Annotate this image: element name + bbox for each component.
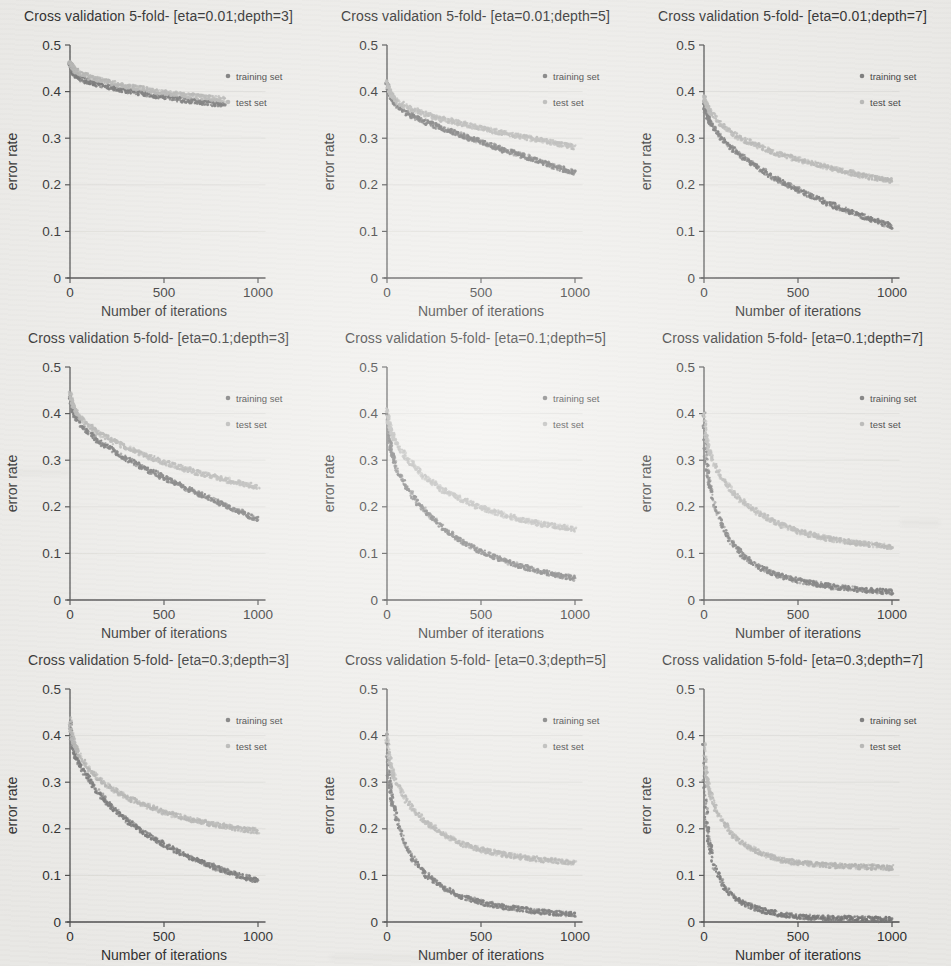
svg-text:0: 0 [53, 915, 61, 930]
svg-text:0.5: 0.5 [359, 38, 378, 53]
svg-text:0.3: 0.3 [359, 775, 378, 790]
legend-training-marker [543, 396, 548, 401]
svg-text:1000: 1000 [243, 285, 273, 300]
chart-panel-eta001-depth7: Cross validation 5-fold- [eta=0.01;depth… [634, 0, 951, 322]
chart-title: Cross validation 5-fold- [eta=0.1;depth=… [634, 322, 951, 349]
svg-text:0.5: 0.5 [676, 360, 695, 375]
legend-test-marker [543, 100, 548, 105]
svg-text:500: 500 [470, 929, 493, 944]
legend-test-marker [543, 422, 548, 427]
chart-title: Cross validation 5-fold- [eta=0.3;depth=… [634, 644, 951, 671]
svg-text:0.2: 0.2 [676, 177, 695, 192]
svg-text:500: 500 [153, 929, 176, 944]
chart-title: Cross validation 5-fold- [eta=0.3;depth=… [317, 644, 634, 671]
svg-text:500: 500 [787, 607, 810, 622]
gridlines [70, 92, 266, 232]
svg-text:0.2: 0.2 [359, 821, 378, 836]
series-training-set [385, 413, 577, 582]
svg-text:0.1: 0.1 [359, 546, 378, 561]
svg-text:0: 0 [687, 593, 695, 608]
y-axis-label: error rate [4, 777, 20, 835]
svg-text:0.4: 0.4 [359, 406, 378, 421]
chart-svg-eta03-depth7: 00.10.20.30.40.505001000Number of iterat… [634, 671, 951, 966]
legend-label: test set [553, 741, 584, 752]
chart-panel-eta01-depth3: Cross validation 5-fold- [eta=0.1;depth=… [0, 322, 317, 644]
chart-title: Cross validation 5-fold- [eta=0.01;depth… [317, 0, 634, 27]
svg-text:500: 500 [153, 285, 176, 300]
x-axis-label: Number of iterations [418, 947, 544, 963]
svg-text:1000: 1000 [877, 929, 907, 944]
legend-label: test set [553, 419, 584, 430]
series-training-set [385, 732, 577, 918]
x-axis-label: Number of iterations [101, 303, 227, 319]
axes: 00.10.20.30.40.505001000Number of iterat… [4, 38, 273, 320]
svg-text:0: 0 [370, 271, 378, 286]
y-axis-label: error rate [638, 133, 654, 191]
legend: training settest set [543, 71, 600, 108]
legend-training-marker [543, 74, 548, 79]
svg-text:0.5: 0.5 [359, 682, 378, 697]
chart-title: Cross validation 5-fold- [eta=0.1;depth=… [0, 322, 317, 349]
legend-test-marker [860, 744, 865, 749]
svg-text:0.2: 0.2 [42, 177, 61, 192]
svg-text:0: 0 [370, 593, 378, 608]
svg-text:0.3: 0.3 [359, 453, 378, 468]
axes: 00.10.20.30.40.505001000Number of iterat… [638, 360, 907, 642]
svg-text:0.4: 0.4 [42, 406, 61, 421]
legend-test-marker [226, 100, 231, 105]
chart-panel-eta01-depth7: Cross validation 5-fold- [eta=0.1;depth=… [634, 322, 951, 644]
legend-label: training set [236, 715, 283, 726]
svg-text:0.2: 0.2 [42, 821, 61, 836]
svg-text:0.3: 0.3 [42, 775, 61, 790]
y-axis-label: error rate [4, 455, 20, 513]
x-axis-label: Number of iterations [101, 625, 227, 641]
series-training-set [68, 720, 259, 883]
series-training-set [702, 411, 895, 595]
svg-text:0.1: 0.1 [676, 224, 695, 239]
svg-text:0.2: 0.2 [676, 499, 695, 514]
y-axis-label: error rate [321, 133, 337, 191]
axes: 00.10.20.30.40.505001000Number of iterat… [321, 682, 590, 964]
gridlines [387, 414, 583, 554]
legend: training settest set [860, 393, 917, 430]
svg-text:0.2: 0.2 [359, 499, 378, 514]
legend: training settest set [543, 715, 600, 752]
svg-text:1000: 1000 [877, 285, 907, 300]
svg-text:500: 500 [153, 607, 176, 622]
legend: training settest set [226, 71, 283, 108]
chart-panel-eta03-depth5: Cross validation 5-fold- [eta=0.3;depth=… [317, 644, 634, 966]
svg-text:0.1: 0.1 [359, 868, 378, 883]
svg-text:0.4: 0.4 [676, 728, 695, 743]
legend-label: test set [236, 419, 267, 430]
legend-test-marker [226, 422, 231, 427]
x-axis-label: Number of iterations [735, 625, 861, 641]
series-test-set [385, 407, 578, 532]
axes: 00.10.20.30.40.505001000Number of iterat… [321, 38, 590, 320]
svg-text:1000: 1000 [560, 929, 590, 944]
legend-label: test set [236, 97, 267, 108]
legend-training-marker [226, 74, 231, 79]
legend-label: test set [870, 741, 901, 752]
legend-label: training set [236, 393, 283, 404]
x-axis-label: Number of iterations [735, 947, 861, 963]
svg-text:0: 0 [687, 915, 695, 930]
chart-panel-eta001-depth3: Cross validation 5-fold- [eta=0.01;depth… [0, 0, 317, 322]
svg-text:0.1: 0.1 [676, 868, 695, 883]
legend: training settest set [543, 393, 600, 430]
legend-label: training set [553, 393, 600, 404]
legend-training-marker [226, 396, 231, 401]
legend-label: training set [870, 393, 917, 404]
legend-test-marker [226, 744, 231, 749]
chart-svg-eta001-depth3: 00.10.20.30.40.505001000Number of iterat… [0, 27, 317, 322]
x-axis-label: Number of iterations [101, 947, 227, 963]
chart-panel-eta01-depth5: Cross validation 5-fold- [eta=0.1;depth=… [317, 322, 634, 644]
y-axis-label: error rate [4, 133, 20, 191]
svg-text:0.3: 0.3 [42, 131, 61, 146]
svg-text:0: 0 [700, 929, 708, 944]
svg-text:0.3: 0.3 [359, 131, 378, 146]
svg-text:0.2: 0.2 [676, 821, 695, 836]
legend-label: test set [870, 97, 901, 108]
legend: training settest set [226, 715, 283, 752]
legend-label: training set [553, 715, 600, 726]
series-test-set [702, 742, 894, 872]
